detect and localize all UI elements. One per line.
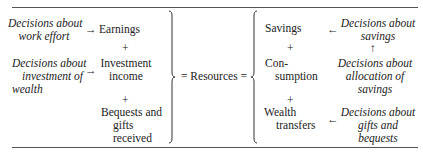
decision-gifts-and-bequests: Decisions about gifts and bequests <box>335 106 421 145</box>
source-earnings: Earnings <box>99 23 140 36</box>
use-wealth-transfers: Wealth transfers <box>264 106 316 132</box>
arrow-up-icon: ↑ <box>370 42 376 55</box>
top-rule <box>12 7 418 8</box>
left-brace <box>250 10 258 144</box>
decision-investment-of-wealth: Decisions about investment of wealth <box>12 57 86 96</box>
plus-sign: + <box>287 42 294 55</box>
source-investment-income: Investment income <box>96 57 156 83</box>
use-consumption: Con- sumption <box>265 57 318 83</box>
plus-sign: + <box>122 42 129 55</box>
source-bequests-gifts: Bequests and gifts received <box>101 106 162 145</box>
resources-equation: = Resources = <box>181 70 247 83</box>
decision-work-effort: Decisions about work effort <box>8 17 80 43</box>
arrow-right-icon: → <box>85 64 97 77</box>
use-savings: Savings <box>265 22 301 35</box>
right-brace <box>168 10 176 144</box>
bottom-rule <box>12 147 418 148</box>
arrow-right-icon: → <box>85 23 97 36</box>
decision-savings: Decisions about savings <box>335 17 421 43</box>
decision-allocation-of-savings: Decisions about allocation of savings <box>330 57 420 96</box>
